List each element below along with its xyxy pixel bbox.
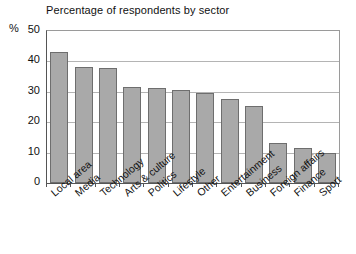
y-axis-tick-label: 0 <box>14 176 40 187</box>
y-axis-tick-label: 20 <box>14 115 40 126</box>
bar <box>172 90 190 183</box>
plot-area <box>46 30 340 184</box>
y-axis-tick-label: 30 <box>14 85 40 96</box>
bars-layer <box>47 31 339 183</box>
bar <box>221 99 239 183</box>
bar-chart: Percentage of respondents by sector % 01… <box>0 0 356 254</box>
y-axis-tick-label: 10 <box>14 146 40 157</box>
y-axis-tick-label: 50 <box>14 24 40 35</box>
y-axis-labels: 01020304050 <box>8 0 40 254</box>
bar <box>50 52 68 183</box>
x-axis-tick-mark <box>46 183 47 187</box>
bar <box>99 68 117 183</box>
chart-title: Percentage of respondents by sector <box>46 3 229 17</box>
y-axis-tick-label: 40 <box>14 54 40 65</box>
